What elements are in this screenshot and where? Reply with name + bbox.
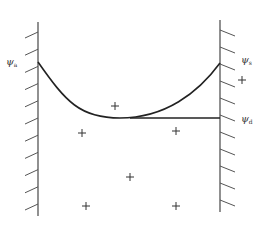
wall-hatch bbox=[220, 98, 235, 104]
label-psi-d: ψd bbox=[241, 114, 253, 125]
plus-marker-icon bbox=[78, 129, 86, 137]
left-wall bbox=[25, 22, 38, 216]
charge-markers bbox=[78, 76, 246, 210]
wall-hatch bbox=[25, 187, 38, 193]
diagram: ψa ψs ψd bbox=[0, 0, 264, 226]
wall-hatch bbox=[220, 30, 235, 36]
diagram-canvas bbox=[0, 0, 264, 226]
wall-hatch bbox=[25, 66, 38, 72]
label-psi-s-symbol: ψ bbox=[241, 54, 249, 65]
wall-hatch bbox=[25, 204, 38, 210]
wall-hatch bbox=[220, 64, 235, 70]
label-psi-d-symbol: ψ bbox=[241, 113, 249, 124]
label-psi-a-symbol: ψ bbox=[6, 56, 14, 67]
wall-hatch bbox=[25, 170, 38, 176]
wall-hatch bbox=[25, 135, 38, 141]
plus-marker-icon bbox=[172, 127, 180, 135]
wall-hatch bbox=[220, 166, 235, 172]
wall-hatch bbox=[220, 200, 235, 206]
wall-hatch bbox=[220, 183, 235, 189]
wall-hatch bbox=[220, 81, 235, 87]
plus-marker-icon bbox=[82, 202, 90, 210]
plus-marker-icon bbox=[126, 173, 134, 181]
potential-curve bbox=[38, 62, 220, 118]
label-psi-d-subscript: d bbox=[249, 118, 253, 125]
plus-marker-icon bbox=[172, 202, 180, 210]
wall-hatch bbox=[25, 118, 38, 124]
wall-hatch bbox=[25, 101, 38, 107]
wall-hatch bbox=[220, 149, 235, 155]
plus-marker-icon bbox=[238, 76, 246, 84]
right-wall bbox=[220, 20, 235, 212]
wall-hatch bbox=[220, 47, 235, 53]
wall-hatch bbox=[25, 152, 38, 158]
label-psi-s: ψs bbox=[241, 55, 252, 66]
plus-marker-icon bbox=[111, 102, 119, 110]
label-psi-a: ψa bbox=[6, 57, 17, 68]
label-psi-s-subscript: s bbox=[249, 59, 252, 66]
wall-hatch bbox=[25, 49, 38, 55]
label-psi-a-subscript: a bbox=[14, 61, 18, 68]
wall-hatch bbox=[25, 32, 38, 38]
wall-hatch bbox=[220, 115, 235, 121]
wall-hatch bbox=[220, 132, 235, 138]
wall-hatch bbox=[25, 84, 38, 90]
